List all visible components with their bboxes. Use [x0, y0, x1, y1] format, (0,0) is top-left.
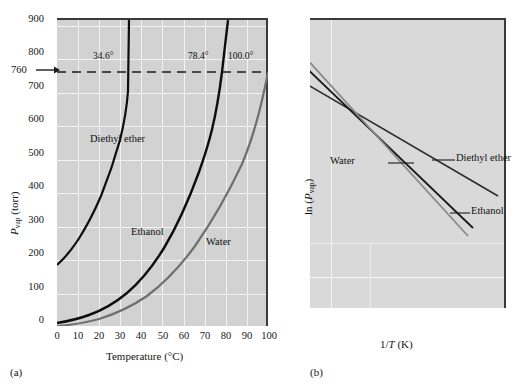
boiling-point-diethyl-ether: 34.6°	[93, 51, 113, 61]
x-axis-prefix: 1/	[380, 338, 389, 350]
curve-label-ethanol: Ethanol	[131, 226, 164, 237]
ytick-label: 400	[10, 181, 44, 192]
y-axis-subscript: vap	[13, 217, 22, 228]
reference-760-arrow	[36, 63, 60, 77]
line-label-water: Water	[330, 155, 355, 166]
ytick-label: 600	[10, 114, 44, 125]
panel-a-x-axis-title: Temperature (°C)	[106, 350, 183, 362]
curve-label-diethyl-ether: Diethyl ether	[90, 133, 145, 144]
y-axis-symbol: P	[302, 193, 314, 200]
panel-b-label: (b)	[310, 366, 323, 378]
vapor-pressure-figure: 0 100 200 300 400 500 600 700 800 900 76…	[0, 0, 525, 390]
x-axis-suffix: (K)	[395, 338, 413, 350]
ytick-label: 900	[10, 14, 44, 25]
y-axis-suffix: )	[302, 179, 314, 183]
line-ethanol	[310, 58, 473, 228]
x-axis-unit: °C	[168, 350, 180, 362]
x-axis-close: )	[180, 350, 184, 362]
reference-760-label: 760	[11, 64, 27, 75]
panel-a-y-axis-title: Pvap (torr)	[8, 191, 22, 235]
xtick-label: 40	[129, 331, 153, 342]
ytick-label: 500	[10, 148, 44, 159]
ytick-label: 0	[10, 315, 44, 326]
panel-a-plot-background	[57, 18, 268, 326]
panel-a-curves	[57, 20, 268, 326]
line-water	[310, 56, 468, 236]
panel-b-y-axis-title: ln (Pvap)	[302, 179, 316, 215]
ytick-label: 200	[10, 248, 44, 259]
boiling-point-water: 100.0°	[228, 51, 253, 61]
y-axis-subscript: vap	[307, 182, 316, 193]
panel-b: Water Diethyl ether Ethanol ln (Pvap) 1/…	[290, 0, 525, 390]
ytick-label: 100	[10, 282, 44, 293]
ytick-label: 800	[10, 47, 44, 58]
curve-water	[57, 72, 268, 326]
line-label-ethanol: Ethanol	[471, 205, 504, 216]
curve-ethanol	[57, 20, 228, 323]
panel-a: 0 100 200 300 400 500 600 700 800 900 76…	[0, 0, 290, 390]
panel-a-label: (a)	[10, 366, 22, 378]
panel-b-x-axis-title: 1/T (K)	[380, 338, 413, 350]
ytick-label: 700	[10, 81, 44, 92]
y-axis-prefix: ln (	[302, 200, 314, 215]
y-axis-symbol: P	[8, 228, 20, 235]
boiling-point-ethanol: 78.4°	[188, 51, 208, 61]
line-diethyl-ether	[310, 78, 498, 196]
curve-label-water: Water	[206, 236, 231, 247]
line-label-diethyl-ether: Diethyl ether	[456, 152, 511, 163]
x-axis-text: Temperature (	[106, 350, 168, 362]
y-axis-unit: (torr)	[8, 191, 20, 217]
panel-a-plot-area	[57, 18, 268, 326]
xtick-label: 100	[256, 331, 282, 342]
